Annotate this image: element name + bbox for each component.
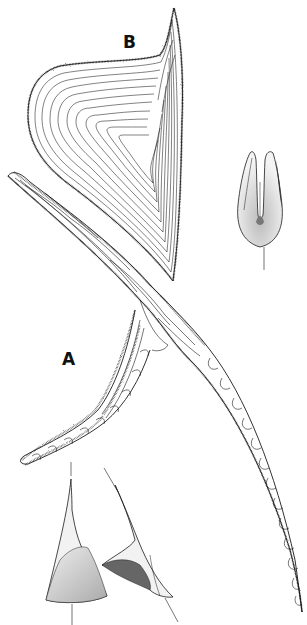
label-a: A bbox=[62, 349, 76, 369]
detail-cone-left bbox=[46, 462, 107, 625]
illustration-plate: B bbox=[0, 0, 307, 625]
label-b: B bbox=[123, 32, 136, 52]
detail-bifid-element bbox=[238, 152, 283, 270]
detail-cone-right bbox=[102, 468, 178, 622]
element-b-plate bbox=[28, 8, 183, 281]
pointer-line-cone-right-bottom bbox=[165, 598, 178, 622]
pointer-line-cone-right-top bbox=[104, 468, 118, 492]
